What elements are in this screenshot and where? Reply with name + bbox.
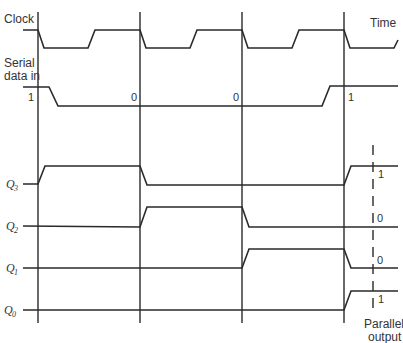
q3-waveform [23, 166, 398, 185]
parallel-output-q1-value: 0 [377, 254, 383, 266]
parallel-output-label-line1: Parallel [364, 317, 403, 331]
clock-label: Clock [4, 12, 35, 26]
serial-value-2: 0 [131, 91, 137, 103]
serial-data-label-line1: Serial [4, 56, 35, 70]
serial-value-1: 1 [28, 91, 34, 103]
svg-text:1: 1 [14, 268, 18, 277]
serial-value-3: 0 [233, 91, 239, 103]
q0-waveform [23, 291, 398, 310]
svg-text:2: 2 [14, 226, 18, 235]
q1-waveform [23, 249, 398, 268]
parallel-output-q0-value: 1 [378, 293, 384, 305]
q1-label: Q 1 [6, 261, 18, 277]
q0-label: Q 0 [4, 303, 16, 319]
q3-label: Q 3 [6, 177, 18, 193]
q2-waveform [23, 207, 398, 227]
svg-text:0: 0 [12, 310, 16, 319]
parallel-output-q2-value: 0 [377, 212, 383, 224]
q2-label: Q 2 [6, 219, 18, 235]
time-label: Time [370, 16, 397, 30]
timing-diagram: Clock Time Serial data in 1 0 0 1 Q 3 Q … [0, 0, 403, 343]
svg-text:3: 3 [13, 184, 18, 193]
serial-data-waveform [23, 86, 398, 106]
serial-data-label-line2: data in [4, 69, 40, 83]
parallel-output-label-line2: output [368, 330, 402, 343]
parallel-output-q3-value: 1 [378, 168, 384, 180]
serial-value-4: 1 [348, 91, 354, 103]
clock-waveform [23, 30, 398, 48]
clock-edge-lines [38, 12, 344, 323]
